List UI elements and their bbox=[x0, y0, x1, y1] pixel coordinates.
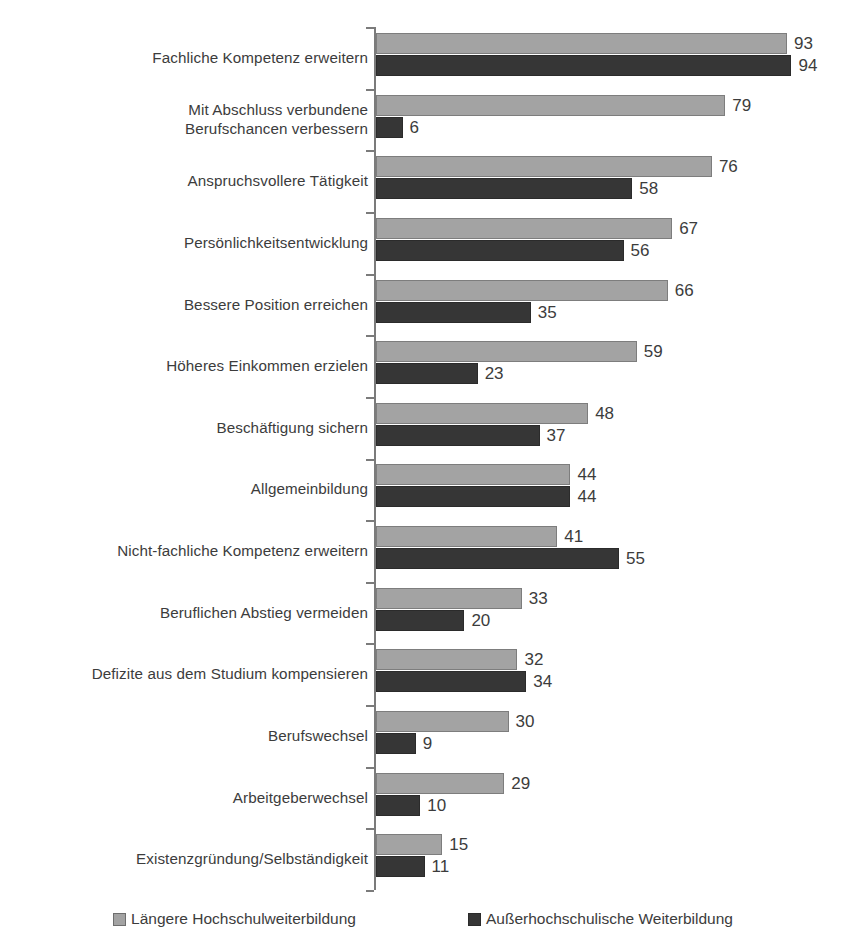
legend-label: Außerhochschulische Weiterbildung bbox=[486, 910, 733, 928]
bar-light[interactable]: 44 bbox=[376, 464, 596, 485]
chart-row: Beruflichen Abstieg vermeiden3320 bbox=[0, 582, 846, 644]
bar-light[interactable]: 15 bbox=[376, 834, 468, 855]
bar-dark[interactable]: 11 bbox=[376, 856, 449, 877]
category-label: Defizite aus dem Studium kompensieren bbox=[92, 643, 368, 705]
chart-row: Fachliche Kompetenz erweitern9394 bbox=[0, 27, 846, 89]
bar-rect-dark[interactable] bbox=[376, 548, 619, 569]
bar-value-label: 29 bbox=[511, 773, 530, 794]
bar-rect-light[interactable] bbox=[376, 464, 570, 485]
bar-dark[interactable]: 94 bbox=[376, 55, 817, 76]
bar-value-label: 20 bbox=[471, 610, 490, 631]
bar-rect-dark[interactable] bbox=[376, 302, 531, 323]
bar-value-label: 35 bbox=[538, 302, 557, 323]
category-label: Berufswechsel bbox=[268, 705, 368, 767]
bar-value-label: 23 bbox=[485, 363, 504, 384]
bar-value-label: 67 bbox=[679, 218, 698, 239]
chart-row: Anspruchsvollere Tätigkeit7658 bbox=[0, 150, 846, 212]
bar-rect-dark[interactable] bbox=[376, 671, 526, 692]
bar-rect-light[interactable] bbox=[376, 526, 557, 547]
legend-item[interactable]: Außerhochschulische Weiterbildung bbox=[468, 910, 733, 928]
bar-light[interactable]: 30 bbox=[376, 711, 535, 732]
bar-rect-light[interactable] bbox=[376, 711, 509, 732]
bar-rect-dark[interactable] bbox=[376, 117, 403, 138]
category-label: Arbeitgeberwechsel bbox=[233, 767, 368, 829]
bar-group: 2910 bbox=[376, 767, 846, 829]
chart-row: Beschäftigung sichern4837 bbox=[0, 397, 846, 459]
bar-rect-dark[interactable] bbox=[376, 856, 425, 877]
chart-row: Persönlichkeitsentwicklung6756 bbox=[0, 212, 846, 274]
bar-rect-light[interactable] bbox=[376, 33, 787, 54]
category-label: Nicht-fachliche Kompetenz erweitern bbox=[117, 520, 368, 582]
bar-rect-light[interactable] bbox=[376, 341, 637, 362]
bar-rect-dark[interactable] bbox=[376, 610, 464, 631]
bar-value-label: 34 bbox=[533, 671, 552, 692]
bar-value-label: 44 bbox=[577, 486, 596, 507]
bar-value-label: 94 bbox=[798, 55, 817, 76]
bar-rect-light[interactable] bbox=[376, 588, 522, 609]
category-label-line: Beschäftigung sichern bbox=[216, 418, 368, 438]
bar-dark[interactable]: 58 bbox=[376, 178, 658, 199]
bar-light[interactable]: 93 bbox=[376, 33, 813, 54]
chart-row: Defizite aus dem Studium kompensieren323… bbox=[0, 643, 846, 705]
bar-rect-light[interactable] bbox=[376, 834, 442, 855]
category-label-line: Fachliche Kompetenz erweitern bbox=[152, 48, 368, 68]
bar-light[interactable]: 48 bbox=[376, 403, 614, 424]
bar-dark[interactable]: 44 bbox=[376, 486, 596, 507]
bar-rect-light[interactable] bbox=[376, 218, 672, 239]
bar-dark[interactable]: 6 bbox=[376, 117, 419, 138]
bar-light[interactable]: 76 bbox=[376, 156, 738, 177]
bar-rect-light[interactable] bbox=[376, 773, 504, 794]
category-label-line: Mit Abschluss verbundene bbox=[188, 100, 368, 120]
legend-item[interactable]: Längere Hochschulweiterbildung bbox=[113, 910, 356, 928]
bar-rect-dark[interactable] bbox=[376, 733, 416, 754]
bar-rect-dark[interactable] bbox=[376, 363, 478, 384]
bar-value-label: 76 bbox=[719, 156, 738, 177]
chart-row: Nicht-fachliche Kompetenz erweitern4155 bbox=[0, 520, 846, 582]
bar-light[interactable]: 67 bbox=[376, 218, 698, 239]
category-label-line: Allgemeinbildung bbox=[251, 479, 368, 499]
bar-dark[interactable]: 35 bbox=[376, 302, 557, 323]
bar-light[interactable]: 41 bbox=[376, 526, 583, 547]
bar-light[interactable]: 33 bbox=[376, 588, 548, 609]
category-label-line: Beruflichen Abstieg vermeiden bbox=[160, 603, 368, 623]
bar-dark[interactable]: 10 bbox=[376, 795, 446, 816]
bar-rect-dark[interactable] bbox=[376, 425, 540, 446]
bar-rect-light[interactable] bbox=[376, 649, 517, 670]
bar-light[interactable]: 79 bbox=[376, 95, 751, 116]
chart-row: Existenzgründung/Selbständigkeit1511 bbox=[0, 828, 846, 890]
bar-dark[interactable]: 23 bbox=[376, 363, 504, 384]
bar-rect-light[interactable] bbox=[376, 280, 668, 301]
bar-dark[interactable]: 55 bbox=[376, 548, 645, 569]
bar-dark[interactable]: 34 bbox=[376, 671, 552, 692]
category-label: Beschäftigung sichern bbox=[216, 397, 368, 459]
chart-rows: Fachliche Kompetenz erweitern9394Mit Abs… bbox=[0, 27, 846, 890]
bar-dark[interactable]: 56 bbox=[376, 240, 649, 261]
bar-rect-dark[interactable] bbox=[376, 178, 632, 199]
bar-group: 4837 bbox=[376, 397, 846, 459]
bar-dark[interactable]: 37 bbox=[376, 425, 565, 446]
bar-rect-dark[interactable] bbox=[376, 795, 420, 816]
bar-rect-light[interactable] bbox=[376, 95, 725, 116]
chart-row: Berufswechsel309 bbox=[0, 705, 846, 767]
bar-light[interactable]: 66 bbox=[376, 280, 694, 301]
bar-value-label: 15 bbox=[449, 834, 468, 855]
bar-value-label: 9 bbox=[423, 733, 432, 754]
bar-dark[interactable]: 20 bbox=[376, 610, 490, 631]
category-label: Fachliche Kompetenz erweitern bbox=[152, 27, 368, 89]
chart-legend: Längere HochschulweiterbildungAußerhochs… bbox=[0, 910, 846, 928]
bar-light[interactable]: 29 bbox=[376, 773, 530, 794]
bar-rect-dark[interactable] bbox=[376, 240, 624, 261]
bar-rect-light[interactable] bbox=[376, 156, 712, 177]
legend-label: Längere Hochschulweiterbildung bbox=[131, 910, 356, 928]
bar-value-label: 10 bbox=[427, 795, 446, 816]
bar-group: 796 bbox=[376, 89, 846, 151]
bar-rect-dark[interactable] bbox=[376, 55, 791, 76]
category-label-line: Nicht-fachliche Kompetenz erweitern bbox=[117, 541, 368, 561]
bar-light[interactable]: 59 bbox=[376, 341, 663, 362]
bar-dark[interactable]: 9 bbox=[376, 733, 432, 754]
category-label-line: Persönlichkeitsentwicklung bbox=[184, 233, 368, 253]
bar-rect-light[interactable] bbox=[376, 403, 588, 424]
legend-swatch-dark bbox=[468, 913, 481, 926]
bar-light[interactable]: 32 bbox=[376, 649, 543, 670]
bar-rect-dark[interactable] bbox=[376, 486, 570, 507]
